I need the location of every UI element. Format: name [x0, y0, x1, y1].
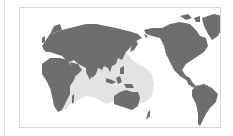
british-isles	[42, 36, 45, 43]
greenland-landmass	[202, 14, 221, 40]
south-america-landmass	[192, 84, 218, 126]
distribution-map	[19, 7, 221, 128]
central-america	[186, 78, 196, 88]
arctic-islands	[180, 14, 200, 22]
north-america-landmass	[144, 22, 208, 82]
aleutians	[144, 34, 148, 38]
world-map-svg	[20, 8, 221, 128]
left-panel-edge	[0, 0, 5, 136]
new-zealand	[146, 110, 150, 120]
